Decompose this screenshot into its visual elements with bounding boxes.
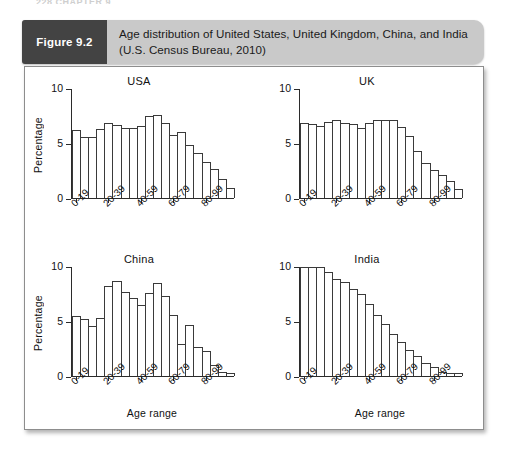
y-axis-tick-label: 10: [51, 82, 63, 94]
x-axis-tick-labels: 0-1920-3940-5960-7980-99: [299, 201, 462, 235]
x-axis-label: Age range: [295, 407, 465, 419]
y-axis-tick-label: 5: [285, 137, 291, 149]
bar-series: [72, 89, 234, 198]
figure-plot-card: USAPercentage05100-1920-3940-5960-7980-9…: [24, 66, 484, 430]
y-axis-tick: 5: [294, 144, 299, 145]
y-axis-label: Percentage: [31, 269, 45, 377]
y-axis-tick-label: 10: [279, 260, 291, 272]
bar-series: [300, 89, 462, 198]
x-axis-label: Age range: [67, 407, 237, 419]
y-axis-tick: 10: [294, 89, 299, 90]
chart-panel-usa: USAPercentage05100-1920-3940-5960-7980-9…: [27, 69, 251, 251]
bar: [226, 373, 235, 376]
y-axis-tick-label: 10: [279, 82, 291, 94]
y-axis-tick-label: 0: [57, 370, 63, 382]
figure-page: 228 CHAPTER 9 Figure 9.2 Age distributio…: [0, 0, 505, 463]
y-axis-tick: 5: [66, 144, 71, 145]
y-axis-tick-label: 0: [57, 192, 63, 204]
figure-caption-bar: Figure 9.2 Age distribution of United St…: [22, 20, 484, 64]
y-axis-tick-label: 0: [285, 370, 291, 382]
y-axis-tick: 5: [66, 322, 71, 323]
y-axis-tick-label: 10: [51, 260, 63, 272]
bar: [226, 188, 235, 198]
running-head: 228 CHAPTER 9: [36, 0, 111, 4]
y-axis-tick-label: 5: [285, 315, 291, 327]
y-axis-label: Percentage: [31, 91, 45, 199]
bar: [454, 373, 463, 376]
bar: [454, 189, 463, 198]
panel-grid: USAPercentage05100-1920-3940-5960-7980-9…: [25, 67, 483, 429]
y-axis-tick: 10: [66, 267, 71, 268]
figure-caption-text: Age distribution of United States, Unite…: [107, 20, 484, 64]
bar-series: [72, 267, 234, 376]
x-axis-tick-labels: 0-1920-3940-5960-7980-99: [71, 201, 234, 235]
y-axis-tick: 10: [294, 267, 299, 268]
y-axis-tick-label: 5: [57, 137, 63, 149]
chart-panel-china: ChinaPercentage05100-1920-3940-5960-7980…: [27, 247, 251, 429]
y-axis-tick: 5: [294, 322, 299, 323]
chart-panel-india: India05100-1920-3940-5960-7980-99Age ran…: [255, 247, 479, 429]
bar-series: [300, 267, 462, 376]
figure-number-tag: Figure 9.2: [22, 20, 107, 64]
y-axis-tick-label: 0: [285, 192, 291, 204]
y-axis-tick: 10: [66, 89, 71, 90]
y-axis-tick-label: 5: [57, 315, 63, 327]
chart-panel-uk: UK05100-1920-3940-5960-7980-99: [255, 69, 479, 251]
